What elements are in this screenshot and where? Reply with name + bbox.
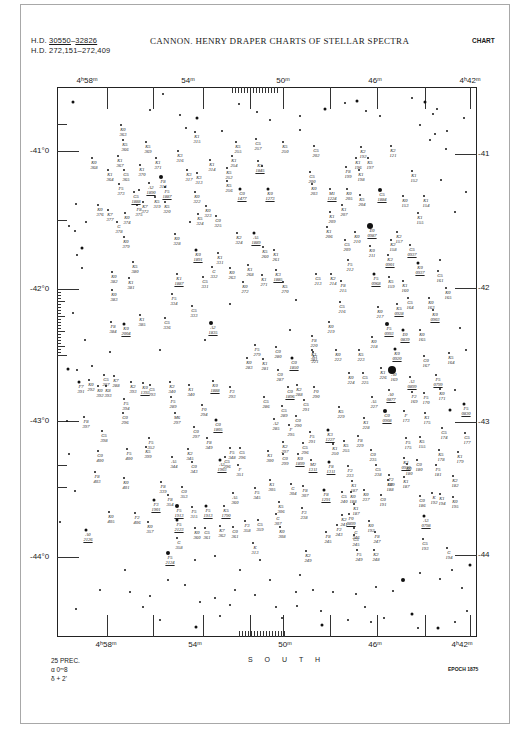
- star-dot: [465, 191, 467, 193]
- star-label: K5306: [278, 504, 285, 514]
- star-label: G378: [116, 224, 123, 234]
- star-dot: [371, 396, 373, 398]
- hd-number: 229: [357, 443, 364, 448]
- star-dot: [348, 372, 350, 374]
- star-label: M6297: [174, 415, 181, 425]
- hd-number: 192: [360, 154, 367, 159]
- hd-number: 1891: [193, 257, 202, 262]
- hd-number: 229: [338, 414, 345, 419]
- star-dot: [67, 368, 70, 371]
- star-dot: [390, 145, 392, 147]
- hd-number: 287: [277, 377, 284, 382]
- star-dot: [309, 171, 311, 173]
- star-dot: [373, 549, 375, 551]
- star-label: F8403: [94, 474, 101, 484]
- hd-number: 313: [196, 180, 203, 185]
- hd-number: 169: [411, 399, 418, 404]
- star-dot: [194, 527, 196, 529]
- star-label: K0322: [194, 194, 201, 204]
- hd-number: 256: [226, 188, 233, 193]
- star-dot: [419, 436, 421, 438]
- star-label: K0405: [108, 514, 115, 524]
- star-dot: [402, 280, 404, 282]
- hd-number: 322: [194, 199, 201, 204]
- ra-tick-bottom: [107, 615, 108, 637]
- star-dot: [179, 114, 181, 116]
- hd-number: 198: [358, 177, 365, 182]
- star-label: G01805: [213, 422, 222, 432]
- star-dot: [229, 447, 231, 449]
- star-dot: [75, 203, 77, 205]
- dec-scale-tick: [57, 313, 61, 314]
- star-dot: [328, 321, 330, 323]
- star-dot: [436, 108, 438, 110]
- star-label: K5319: [154, 199, 161, 209]
- hd-number: 332: [211, 274, 218, 279]
- hd-number: 280: [275, 354, 282, 359]
- hd-number: 384: [110, 329, 117, 334]
- star-dot: [187, 448, 189, 450]
- hd-number: 349: [206, 445, 213, 450]
- star-dot: [330, 273, 332, 275]
- star-dot: [282, 441, 284, 443]
- star-dot: [197, 213, 199, 215]
- hd-number: 249: [356, 557, 363, 562]
- star-dot: [149, 384, 151, 386]
- hd-number: 283: [246, 365, 253, 370]
- hd-number: 227: [371, 404, 378, 409]
- hd-number: 159: [388, 284, 395, 289]
- hd-number: 379: [123, 244, 130, 249]
- star-dot: [159, 349, 161, 351]
- star-dot: [149, 109, 151, 111]
- star-label: K00920: [392, 351, 401, 361]
- hd-number: 207: [341, 212, 348, 217]
- hd-number: 247: [374, 539, 381, 544]
- star-dot: [445, 148, 447, 150]
- star-dot: [313, 145, 315, 147]
- star-label: K2288: [296, 387, 303, 397]
- star-label: G5286: [263, 399, 270, 409]
- dec-scale-tick: [57, 295, 61, 296]
- dec-scale-tick: [57, 352, 61, 353]
- dec-scale-tick: [57, 292, 61, 293]
- star-label: G0290: [295, 418, 302, 428]
- hd-number: 169: [391, 377, 398, 382]
- star-dot: [123, 169, 125, 171]
- star-dot: [68, 225, 70, 227]
- hd-number: 394: [123, 406, 130, 411]
- hd-number: 293: [229, 394, 236, 399]
- dec-tick-left: [57, 421, 79, 422]
- star-dot: [310, 459, 312, 461]
- star-dot: [219, 615, 221, 617]
- star-dot: [126, 448, 128, 450]
- star-label: K192: [431, 495, 438, 505]
- hd-number: 370: [139, 172, 146, 177]
- star-label: K5270: [282, 284, 289, 294]
- star-dot: [267, 450, 269, 452]
- hd-number: 203: [311, 191, 318, 196]
- star-dot: [387, 254, 389, 256]
- star-dot: [380, 367, 382, 369]
- hd-number: 0908: [382, 418, 391, 423]
- star-label: K1154: [423, 198, 430, 208]
- star-label: K0283: [246, 360, 253, 370]
- star-dot: [107, 169, 109, 171]
- star-dot: [59, 521, 61, 523]
- star-label: K1175: [424, 415, 431, 425]
- hd-number: 187: [353, 511, 360, 516]
- star-label: F8397: [83, 419, 90, 429]
- hd-number: 0899: [407, 384, 416, 389]
- star-label: K2158: [390, 242, 397, 252]
- hd-number: 288: [113, 383, 120, 388]
- star-label: F81291: [321, 492, 330, 502]
- star-label: K1228: [363, 420, 370, 430]
- hd-number: 187: [403, 484, 410, 489]
- star-dot: [133, 191, 135, 193]
- star-dot: [84, 339, 86, 341]
- star-label: F8354: [167, 497, 174, 507]
- hd-number: 1913: [174, 513, 183, 518]
- ra-label-bottom: 4ʰ58ᵐ: [96, 640, 117, 649]
- star-dot: [229, 386, 231, 388]
- star-dot: [358, 349, 360, 351]
- hd-number: 381: [128, 285, 135, 290]
